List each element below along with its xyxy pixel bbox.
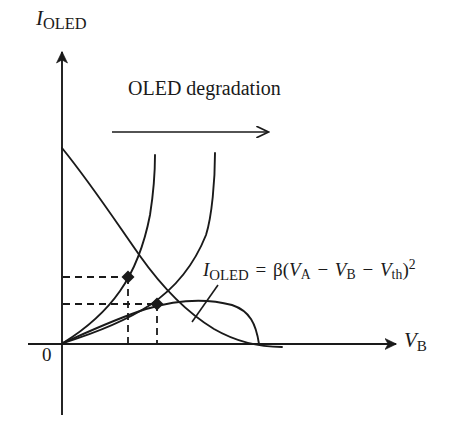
origin-label: 0 [42,345,52,364]
x-axis-label-symbol: V [404,328,417,352]
equation-minus-1: − [317,259,328,280]
figure-canvas [0,0,457,430]
equation-vb-symbol: V [335,259,347,280]
equation-vth-subscript: th [392,267,403,282]
operating-point-degraded-marker [151,298,164,311]
equation-va-subscript: A [301,267,311,282]
equation-vth-symbol: V [380,259,392,280]
curve-group [62,148,282,347]
x-axis-label-subscript: B [417,338,427,354]
equation-va-symbol: V [289,259,301,280]
degradation-annotation-text: OLED degradation [128,78,281,98]
equation-equals-sign: = [256,259,267,280]
equation-lhs-subscript: OLED [209,267,249,283]
y-axis-label-subscript: OLED [43,14,87,33]
tft-parabola-1-path [63,155,155,343]
equation-leader-line [192,285,218,322]
y-axis-label-symbol: I [36,6,43,30]
axis-group [28,52,396,415]
oled-current-equation: IOLED = β(VA − VB − Vth)2 [203,258,416,282]
equation-vb-subscript: B [346,267,355,282]
equation-exponent: 2 [409,257,416,272]
equation-beta-symbol: β [273,259,283,280]
figure-container: IOLED VB 0 OLED degradation IOLED = β(VA… [0,0,457,430]
y-axis-label: IOLED [36,8,87,32]
equation-minus-2: − [362,259,373,280]
operating-point-initial-marker [122,271,135,284]
x-axis-label: VB [404,330,427,354]
